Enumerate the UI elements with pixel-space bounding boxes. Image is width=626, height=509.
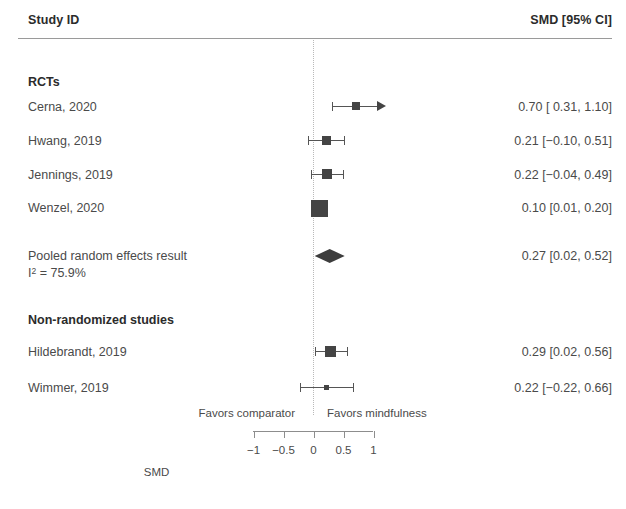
ci-cap-upper-jennings	[343, 170, 344, 179]
ci-arrow-upper-cerna	[377, 101, 386, 111]
axis-tick-1	[284, 431, 285, 438]
point-estimate-box-hildebrandt	[325, 346, 336, 357]
ci-cap-upper-wimmer	[353, 383, 354, 392]
axis-tick-2	[314, 431, 315, 438]
forest-plot: Study ID SMD [95% CI] RCTs Cerna, 2020 0…	[0, 0, 626, 509]
point-estimate-box-hwang	[322, 136, 331, 145]
axis-tick-0	[254, 431, 255, 438]
point-estimate-box-cerna	[352, 102, 360, 110]
point-estimate-box-jennings	[322, 169, 332, 179]
axis-title-text: SMD	[144, 466, 170, 478]
ci-cap-lower-jennings	[311, 170, 312, 179]
axis-tick-3	[344, 431, 345, 438]
ci-cap-lower-cerna	[332, 102, 333, 111]
axis-tick-label-4: 1	[354, 444, 394, 456]
ci-cap-upper-hildebrandt	[347, 347, 348, 356]
ci-cap-lower-hwang	[308, 136, 309, 145]
point-estimate-box-wimmer	[324, 385, 329, 390]
favors-mindfulness-label: Favors mindfulness	[327, 407, 427, 419]
point-estimate-box-wenzel	[311, 200, 328, 217]
axis-tick-4	[374, 431, 375, 438]
pooled-diamond	[315, 249, 345, 263]
ci-cap-lower-wimmer	[300, 383, 301, 392]
axis-title: SMD	[0, 466, 626, 478]
ci-cap-upper-hwang	[344, 136, 345, 145]
favors-comparator-label: Favors comparator	[198, 407, 295, 419]
ci-cap-lower-hildebrandt	[315, 347, 316, 356]
